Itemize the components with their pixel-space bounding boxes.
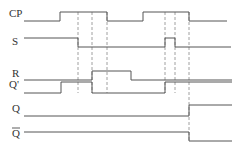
signal-label: CP [9,7,22,19]
waveform-q-bar [24,132,232,141]
waveform-qprime [24,82,232,93]
signal-label: Q [12,102,20,114]
timing-diagram: CPSRQ'QQ [0,0,240,155]
waveform-s [24,38,231,47]
signal-label: Q [12,127,20,139]
signal-labels: CPSRQ'QQ [9,7,22,139]
waveform-r [24,71,232,80]
signal-label: S [12,35,18,47]
dashed-guides [78,12,189,141]
waveform-q [24,105,232,116]
signal-waveforms [24,12,232,141]
signal-label: Q' [9,78,19,90]
waveform-cp [24,12,227,21]
